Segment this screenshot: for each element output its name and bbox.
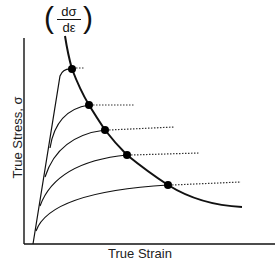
intersection-marker-5 (164, 181, 172, 189)
flow-curve-4 (36, 185, 168, 231)
x-axis-label: True Strain (90, 246, 190, 261)
dotted-extension-4 (131, 153, 199, 155)
elastic-line (33, 69, 72, 244)
hardening-rate-curve (65, 36, 242, 207)
dotted-extension-3 (109, 127, 174, 130)
intersection-marker-4 (123, 151, 131, 159)
hardening-rate-label: ( dσ dε ) (44, 2, 94, 38)
denominator: dε (56, 21, 82, 35)
left-paren: ( (44, 2, 54, 34)
right-paren: ) (83, 2, 93, 34)
intersection-marker-3 (101, 126, 109, 134)
intersection-marker-2 (85, 101, 93, 109)
numerator: dσ (56, 5, 82, 19)
dotted-extension-5 (172, 182, 241, 185)
intersection-marker-1 (68, 65, 76, 73)
y-axis-label: True Stress, σ (10, 83, 25, 193)
flow-curve-1 (50, 105, 89, 148)
flow-curve-3 (40, 155, 127, 206)
flow-curve-2 (45, 130, 105, 177)
